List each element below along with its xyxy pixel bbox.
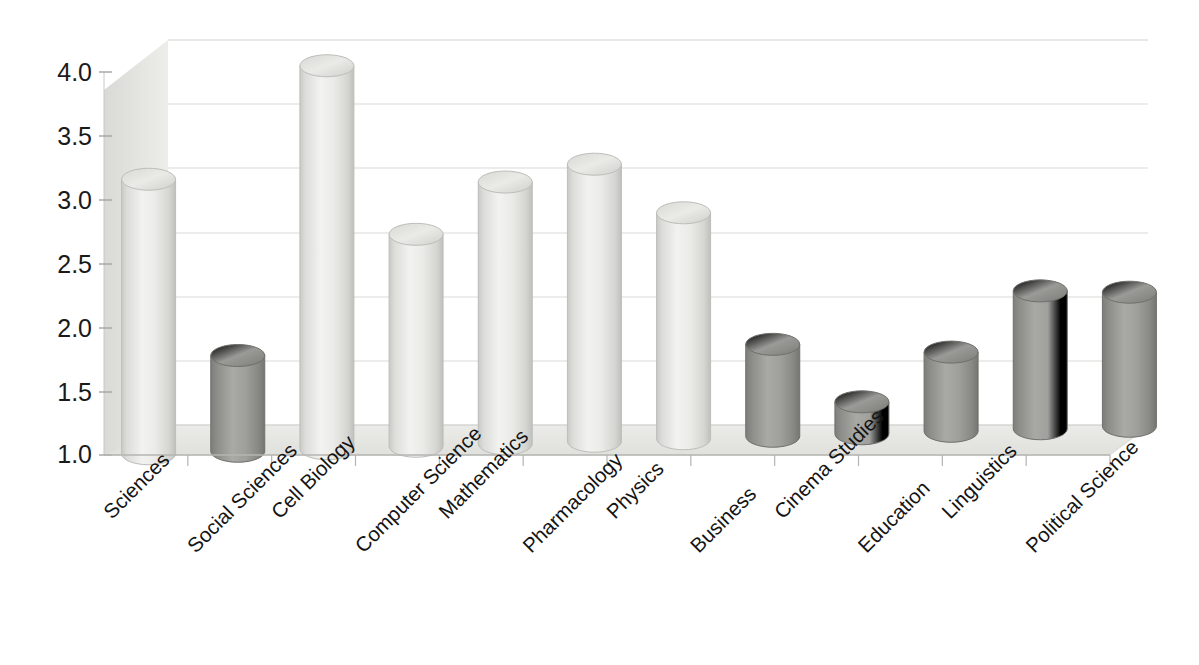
- bar-chart-svg: 4.0 3.5 3.0 2.5 2.0 1.5 1.0 SciencesSoci…: [0, 0, 1199, 665]
- y-tick-label: 1.5: [57, 378, 92, 406]
- bar-body: [211, 356, 265, 463]
- bar-top-cap: [1013, 280, 1067, 302]
- bar-top-cap: [657, 202, 711, 224]
- bar-body: [567, 164, 621, 452]
- y-tick-label: 4.0: [57, 58, 92, 86]
- bar-cylinder: [657, 202, 711, 450]
- y-tick-label: 3.0: [57, 186, 92, 214]
- bar-cylinder: [478, 171, 532, 455]
- y-tick-label: 1.0: [57, 440, 92, 468]
- bar-top-cap: [835, 391, 889, 413]
- bar-cylinder: [211, 345, 265, 463]
- bar-cylinder: [122, 168, 176, 464]
- bar-top-cap: [211, 345, 265, 367]
- bar-top-cap: [1102, 281, 1156, 303]
- bar-body: [1102, 292, 1156, 437]
- bar-top-cap: [567, 153, 621, 175]
- bar-top-cap: [389, 223, 443, 245]
- bar-top-cap: [478, 171, 532, 193]
- bar-body: [478, 182, 532, 455]
- bar-cylinder: [924, 341, 978, 442]
- bar-cylinder: [389, 223, 443, 457]
- bar-body: [122, 179, 176, 464]
- bar-body: [1013, 291, 1067, 440]
- bar-body: [300, 66, 354, 460]
- bar-top-cap: [122, 168, 176, 190]
- bar-cylinder: [300, 55, 354, 460]
- bar-cylinder: [746, 333, 800, 447]
- y-tick-label: 3.5: [57, 122, 92, 150]
- y-tick-label: 2.5: [57, 250, 92, 278]
- bar-cylinder: [1102, 281, 1156, 437]
- bar-top-cap: [746, 333, 800, 355]
- bar-cylinder: [567, 153, 621, 452]
- y-tick-label: 2.0: [57, 314, 92, 342]
- bar-body: [657, 213, 711, 450]
- bar-body: [746, 344, 800, 447]
- bar-top-cap: [300, 55, 354, 77]
- bar-body: [924, 352, 978, 442]
- bar-top-cap: [924, 341, 978, 363]
- chart-container: 4.0 3.5 3.0 2.5 2.0 1.5 1.0 SciencesSoci…: [0, 0, 1199, 665]
- bar-cylinder: [1013, 280, 1067, 440]
- bar-body: [389, 234, 443, 457]
